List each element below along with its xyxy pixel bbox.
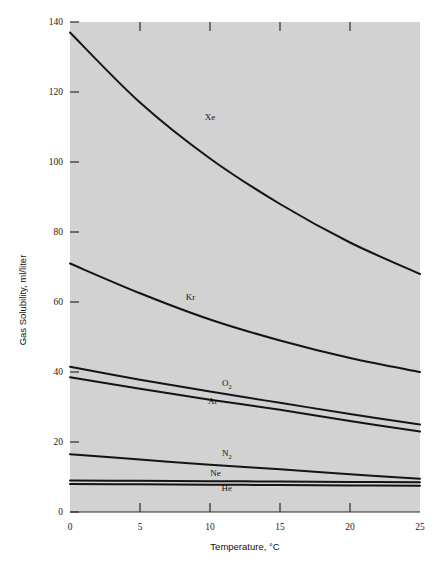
curve-label-Xe: Xe [205,112,216,122]
x-tick-label: 10 [205,522,215,532]
y-tick-label: 100 [49,157,64,167]
curve-label-subscript: 2 [228,453,231,460]
gas-solubility-figure: 020406080100120140 0510152025 XeKrO2ArN2… [0,0,437,572]
curve-label-Kr: Kr [186,292,196,302]
x-axis-title: Temperature, °C [210,541,279,552]
x-tick-label: 20 [345,522,355,532]
y-tick-label: 0 [58,507,63,517]
y-tick-label: 60 [54,297,64,307]
y-tick-label: 120 [49,87,64,97]
y-tick-label: 40 [54,367,64,377]
y-tick-label: 80 [54,227,64,237]
x-tick-label: 25 [415,522,425,532]
y-tick-label: 140 [49,17,64,27]
curve-label-subscript: 2 [228,383,231,390]
curve-label-He: He [222,483,233,493]
plot-area-background [70,22,420,512]
x-tick-label: 15 [275,522,285,532]
x-tick-label: 5 [138,522,143,532]
gas-solubility-chart: 020406080100120140 0510152025 XeKrO2ArN2… [0,0,437,572]
x-tick-label: 0 [68,522,73,532]
y-tick-label: 20 [54,437,64,447]
y-axis-title: Gas Solubility, ml/liter [17,255,28,346]
curve-label-Ar: Ar [208,396,218,406]
curve-label-Ne: Ne [210,468,221,478]
